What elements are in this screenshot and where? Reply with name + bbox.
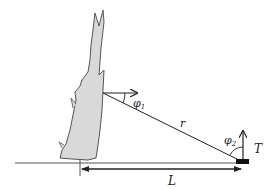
tree-trunk	[60, 10, 104, 160]
angle-arc-phi1	[123, 93, 125, 103]
label-r: r	[180, 117, 186, 130]
tree-pulling-diagram: φ1 r φ2 T L	[0, 0, 275, 190]
label-T: T	[254, 142, 263, 156]
sensor-block	[236, 159, 249, 164]
rope-line	[103, 93, 243, 162]
angle-arc-phi2	[230, 147, 243, 155]
label-phi2: φ2	[224, 134, 237, 148]
branch-stub	[59, 142, 64, 148]
label-phi1: φ1	[133, 97, 145, 111]
label-L: L	[167, 174, 176, 188]
